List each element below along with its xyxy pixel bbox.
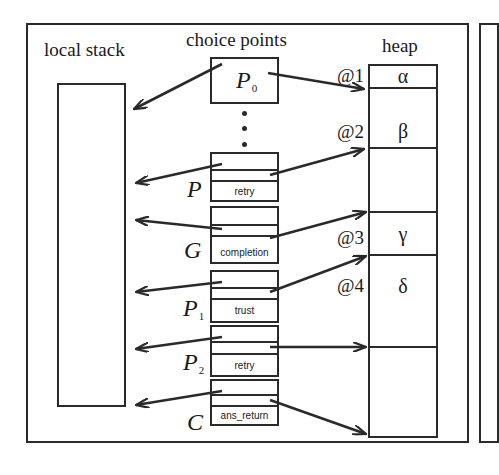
- arrow-g-to-stack: [136, 220, 222, 229]
- arrow-p-to-stack: [136, 164, 222, 183]
- arrow-c-to-heap: [270, 400, 366, 434]
- arrow-c-to-stack: [136, 391, 222, 405]
- arrow-p-to-heap: [270, 149, 364, 175]
- arrow-p0-to-heap: [268, 73, 364, 89]
- arrow-g-to-heap: [270, 212, 366, 238]
- arrow-p1-to-stack: [136, 282, 222, 292]
- arrow-p1-to-heap: [270, 256, 366, 292]
- arrow-p0-to-stack: [134, 64, 222, 109]
- arrow-p2-to-stack: [136, 337, 222, 349]
